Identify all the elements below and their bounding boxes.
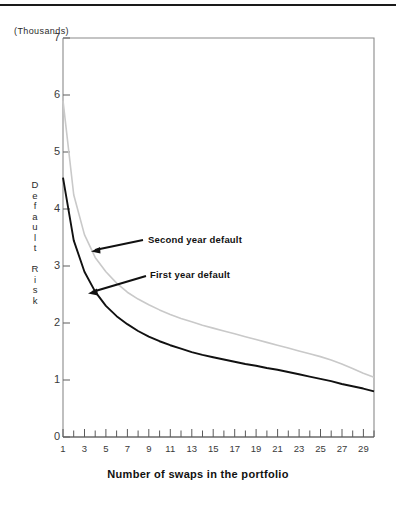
chart-figure: (Thousands) D e f a u l t R i s k Number… bbox=[0, 0, 396, 509]
x-tick-label-7: 7 bbox=[125, 443, 130, 454]
x-tick-label-25: 25 bbox=[315, 443, 326, 454]
x-tick-label-27: 27 bbox=[337, 443, 348, 454]
annotation-label-second-year-default: Second year default bbox=[148, 234, 242, 245]
x-tick-label-9: 9 bbox=[146, 443, 151, 454]
y-tick-label-3: 3 bbox=[44, 259, 60, 271]
x-tick-label-13: 13 bbox=[187, 443, 198, 454]
x-tick-label-15: 15 bbox=[208, 443, 219, 454]
y-tick-label-1: 1 bbox=[44, 373, 60, 385]
x-tick-label-21: 21 bbox=[272, 443, 283, 454]
annotation-label-first-year-default: First year default bbox=[150, 269, 230, 280]
x-tick-label-1: 1 bbox=[60, 443, 65, 454]
y-tick-label-2: 2 bbox=[44, 316, 60, 328]
x-tick-label-3: 3 bbox=[82, 443, 87, 454]
y-tick-label-7: 7 bbox=[44, 31, 60, 43]
x-tick-label-23: 23 bbox=[294, 443, 305, 454]
y-tick-label-4: 4 bbox=[44, 202, 60, 214]
y-axis-ticks bbox=[63, 38, 70, 437]
y-tick-label-5: 5 bbox=[44, 145, 60, 157]
x-tick-label-11: 11 bbox=[165, 443, 175, 454]
y-tick-label-6: 6 bbox=[44, 88, 60, 100]
x-axis-ticks bbox=[63, 429, 374, 437]
y-tick-label-0: 0 bbox=[44, 430, 60, 442]
x-tick-label-17: 17 bbox=[229, 443, 240, 454]
x-tick-label-29: 29 bbox=[358, 443, 369, 454]
x-tick-label-5: 5 bbox=[103, 443, 108, 454]
annotation-arrow-second-year bbox=[91, 240, 143, 254]
x-tick-label-19: 19 bbox=[251, 443, 262, 454]
annotation-arrow-first-year bbox=[88, 276, 146, 296]
